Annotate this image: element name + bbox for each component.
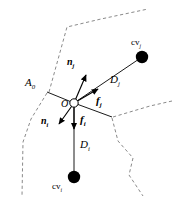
label-distance-i: Di	[80, 139, 90, 153]
figure-container: A0 O nj ni fj fi Dj Di cvj cvi	[0, 0, 174, 202]
boundary-left-lower	[22, 93, 47, 196]
label-cv-j: cvj	[131, 38, 141, 49]
label-face-area: A0	[25, 77, 35, 91]
diagram-canvas	[0, 0, 174, 202]
label-cv-i: cvi	[52, 182, 62, 193]
label-normal-j: nj	[67, 57, 74, 69]
boundary-right-lower	[112, 118, 143, 196]
label-origin: O	[61, 99, 68, 109]
boundary-upper-left	[49, 9, 148, 92]
label-normal-i: ni	[41, 116, 48, 128]
cv-i-node	[68, 171, 80, 183]
cv-j-node	[136, 51, 148, 63]
label-force-j: fj	[96, 95, 102, 109]
boundary-right-upper	[113, 101, 172, 117]
label-force-i: fi	[80, 114, 86, 128]
label-distance-j: Dj	[110, 74, 120, 88]
origin-node	[70, 99, 78, 107]
